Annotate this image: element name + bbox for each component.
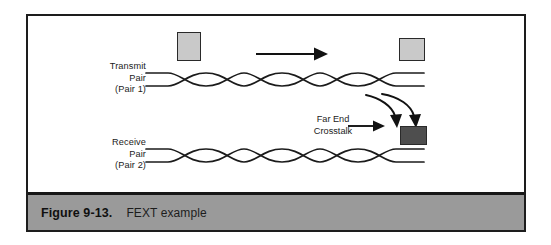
receive-pair-label-line3: (Pair 2) [50,160,146,172]
far-end-crosstalk-label-line2: Crosstalk [296,126,370,138]
far-end-crosstalk-label: Far End Crosstalk [296,114,370,138]
transmit-pair-label-line1: Transmit [50,61,146,73]
figure-caption-bar: Figure 9-13. FEXT example [28,192,524,230]
receive-pair-label: Receive Pair (Pair 2) [50,137,146,172]
receive-far-end-connector-box [400,126,427,145]
figure-caption-title: FEXT example [126,206,206,220]
transmit-pair-label: Transmit Pair (Pair 1) [50,61,146,96]
transmit-pair-label-line3: (Pair 1) [50,84,146,96]
transmit-pair-cable [146,73,424,86]
signal-direction-arrow-icon [256,48,328,61]
figure-root: Transmit Pair (Pair 1) Receive Pair (Pai… [0,0,551,245]
receive-pair-cable [146,149,424,162]
figure-frame: Transmit Pair (Pair 1) Receive Pair (Pai… [26,14,526,232]
receive-pair-label-line1: Receive [50,137,146,149]
far-end-crosstalk-label-line1: Far End [296,114,370,126]
transmit-pair-label-line2: Pair [50,73,146,85]
transmit-near-end-connector-box [177,32,201,61]
figure-caption-number: Figure 9-13. [41,206,112,220]
receive-pair-label-line2: Pair [50,149,146,161]
diagram-canvas: Transmit Pair (Pair 1) Receive Pair (Pai… [28,16,524,192]
transmit-far-end-connector-box [399,38,425,61]
